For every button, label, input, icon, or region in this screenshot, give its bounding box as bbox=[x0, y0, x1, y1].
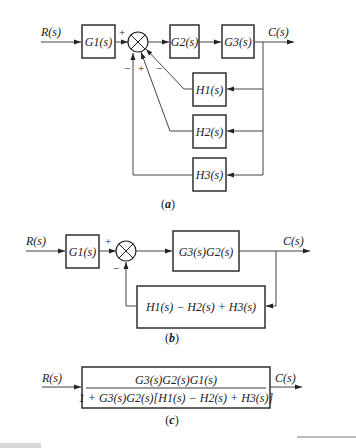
diagram-a: R(s) G1(s) + G2(s) G3(s) C(s) bbox=[40, 25, 294, 211]
sign-plus-h2-a: + bbox=[138, 62, 144, 74]
block-feedback-b-label: H1(s) − H2(s) + H3(s) bbox=[145, 300, 256, 314]
output-label-a: C(s) bbox=[268, 25, 289, 39]
sign-minus-fb-b: − bbox=[113, 262, 119, 274]
diagram-b: R(s) G1(s) + G3(s)G2(s) C(s) H1(s) − H2(… bbox=[25, 231, 310, 345]
page-corner-mark bbox=[0, 443, 41, 448]
block-h3-a: H3(s) bbox=[193, 158, 226, 191]
block-g3-a-label: G3(s) bbox=[224, 35, 251, 49]
block-g3-a: G3(s) bbox=[222, 25, 254, 58]
sign-plus-main-b: + bbox=[105, 235, 111, 247]
block-h3-a-label: H3(s) bbox=[195, 168, 223, 182]
feedback-line-b bbox=[126, 262, 137, 306]
block-g1-b-label: G1(s) bbox=[69, 245, 96, 259]
block-diagram-canvas: R(s) G1(s) + G2(s) G3(s) C(s) bbox=[0, 0, 356, 448]
block-h2-a: H2(s) bbox=[193, 115, 226, 148]
sign-minus-h1-a: − bbox=[156, 62, 162, 74]
block-h1-a: H1(s) bbox=[193, 73, 226, 106]
input-label-a: R(s) bbox=[40, 25, 61, 39]
input-label-b: R(s) bbox=[25, 234, 46, 248]
summing-junction-a bbox=[128, 32, 148, 52]
input-label-c: R(s) bbox=[41, 371, 62, 385]
block-forward-b: G3(s)G2(s) bbox=[173, 231, 239, 271]
output-label-b: C(s) bbox=[283, 234, 304, 248]
sign-plus-main-a: + bbox=[119, 26, 125, 38]
caption-a: (a) bbox=[161, 197, 175, 211]
diagram-c: R(s) G3(s)G2(s)G1(s) 1 + G3(s)G2(s)[H1(s… bbox=[41, 367, 302, 427]
block-g2-a-label: G2(s) bbox=[171, 35, 198, 49]
takeoff-line-b bbox=[266, 251, 276, 306]
transfer-numerator: G3(s)G2(s)G1(s) bbox=[135, 373, 217, 387]
output-label-c: C(s) bbox=[275, 371, 296, 385]
h2-feedback-line bbox=[141, 52, 193, 131]
caption-c: (c) bbox=[165, 413, 178, 427]
block-h1-a-label: H1(s) bbox=[195, 83, 223, 97]
summing-junction-b bbox=[116, 241, 136, 261]
caption-b: (b) bbox=[165, 331, 179, 345]
block-feedback-b: H1(s) − H2(s) + H3(s) bbox=[137, 286, 265, 328]
block-g1-b: G1(s) bbox=[66, 235, 99, 268]
block-g1-a-label: G1(s) bbox=[85, 35, 112, 49]
transfer-denominator: 1 + G3(s)G2(s)[H1(s) − H2(s) + H3(s)] bbox=[79, 391, 274, 405]
block-forward-b-label: G3(s)G2(s) bbox=[179, 245, 234, 259]
block-closed-loop-c: G3(s)G2(s)G1(s) 1 + G3(s)G2(s)[H1(s) − H… bbox=[79, 367, 274, 408]
block-g1-a: G1(s) bbox=[82, 25, 115, 58]
block-h2-a-label: H2(s) bbox=[195, 125, 223, 139]
block-g2-a: G2(s) bbox=[170, 25, 199, 58]
sign-minus-h3-a: − bbox=[124, 62, 130, 74]
